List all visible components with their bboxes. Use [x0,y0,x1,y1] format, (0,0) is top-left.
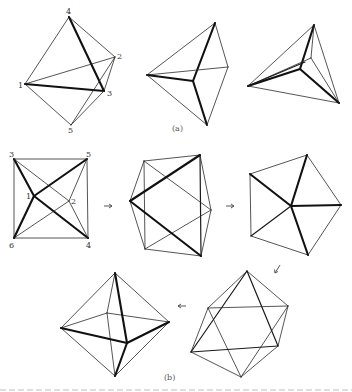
panel-b5: (b) [61,273,175,382]
polyhedra-figure: 4 2 1 3 5 (a) [0,0,352,392]
down-left-arrow-icon [275,265,281,273]
right-arrow-icon [226,204,234,208]
vertex-label-3: 3 [107,89,112,98]
vertex-label-1: 1 [18,81,23,90]
vertex-label-1: 1 [26,192,31,201]
part-label-a: (a) [172,124,183,133]
right-arrow-icon [104,204,112,208]
panel-a2: (a) [147,23,228,133]
vertex-label-6: 6 [9,241,14,250]
panel-b1: 3 5 1 2 6 4 [9,150,91,250]
left-arrow-icon [178,304,186,308]
vertex-label-2: 2 [117,52,122,61]
vertex-label-4: 4 [86,241,91,250]
vertex-label-5: 5 [86,150,91,159]
vertex-label-4: 4 [66,7,71,16]
clipped-caption [0,386,352,392]
vertex-label-5: 5 [68,126,73,135]
panel-a3 [248,25,339,103]
part-label-b: (b) [164,373,175,382]
vertex-label-2: 2 [71,197,76,206]
vertex-label-3: 3 [9,150,14,159]
panel-b4 [191,271,288,377]
panel-b3 [250,155,341,255]
panel-a1: 4 2 1 3 5 [18,7,122,135]
panel-b2 [130,155,211,256]
